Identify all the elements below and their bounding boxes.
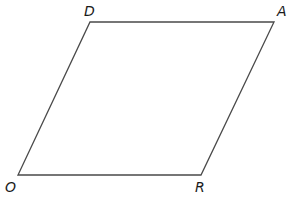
- vertex-label-d: D: [84, 4, 95, 18]
- vertex-label-o: O: [5, 180, 16, 194]
- vertex-label-r: R: [195, 180, 205, 194]
- vertex-label-a: A: [277, 4, 287, 18]
- parallelogram-shape: [0, 0, 298, 199]
- parallelogram-diagram: D A R O: [0, 0, 298, 199]
- parallelogram-outline: [18, 22, 274, 175]
